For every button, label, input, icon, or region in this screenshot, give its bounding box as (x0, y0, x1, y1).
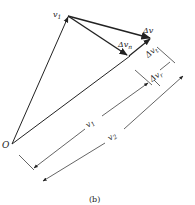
dimension-v2-right (124, 76, 183, 129)
vector-v2 (12, 56, 130, 144)
label-v1-tip: v1 (53, 10, 61, 20)
dimension-delta-vr (160, 62, 170, 70)
extension-line-vt (157, 47, 175, 63)
extension-line-origin (19, 155, 34, 170)
velocity-vector-diagram: O v1 Δv Δvn Δvt Δvr v1 v2 (b) (0, 0, 195, 205)
label-delta-vn: Δvn (117, 40, 132, 50)
label-origin: O (2, 140, 10, 150)
label-dim-v2: v2 (106, 130, 119, 143)
figure-caption: (b) (89, 195, 100, 204)
dimension-v2-left (43, 143, 105, 181)
label-delta-v: Δv (142, 26, 154, 35)
dimension-v1-left (34, 129, 85, 168)
dimension-v1-right (102, 83, 148, 116)
vector-v1 (12, 17, 68, 144)
vector-delta-vn (68, 16, 127, 55)
label-dim-v1: v1 (84, 117, 97, 130)
label-delta-vt: Δvt (143, 44, 160, 61)
vector-delta-v (68, 16, 150, 38)
